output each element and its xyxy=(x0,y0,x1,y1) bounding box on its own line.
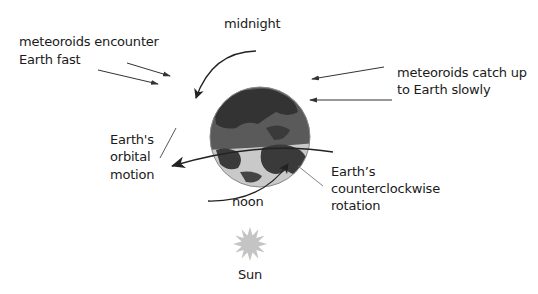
fast-meteoroid-arrow-1 xyxy=(127,63,170,76)
midnight-label: midnight xyxy=(224,15,280,32)
slow-meteoroid-arrow-1 xyxy=(312,67,384,79)
noon-label: noon xyxy=(232,193,264,210)
rotation-label-line2: counterclockwise xyxy=(331,180,440,197)
rotation-label-line3: rotation xyxy=(331,197,380,214)
fast-meteoroid-arrow-2 xyxy=(98,70,158,84)
slow-meteoroids-label-line2: to Earth slowly xyxy=(397,81,490,98)
rotation-label-line1: Earth’s xyxy=(331,163,375,180)
orbital-motion-label-line3: motion xyxy=(110,166,154,183)
earth-globe xyxy=(205,82,315,192)
orbital-motion-label-line2: orbital xyxy=(110,148,150,165)
sun-icon xyxy=(233,227,267,261)
orbital-leader-line xyxy=(160,128,176,158)
fast-meteoroids-label-line2: Earth fast xyxy=(19,51,80,68)
fast-meteoroids-label-line1: meteoroids encounter xyxy=(19,33,159,50)
slow-meteoroids-label-line1: meteoroids catch up xyxy=(397,64,527,81)
sun-label: Sun xyxy=(238,266,262,283)
orbital-motion-label-line1: Earth's xyxy=(110,131,154,148)
rotation-leader-line xyxy=(298,166,323,186)
